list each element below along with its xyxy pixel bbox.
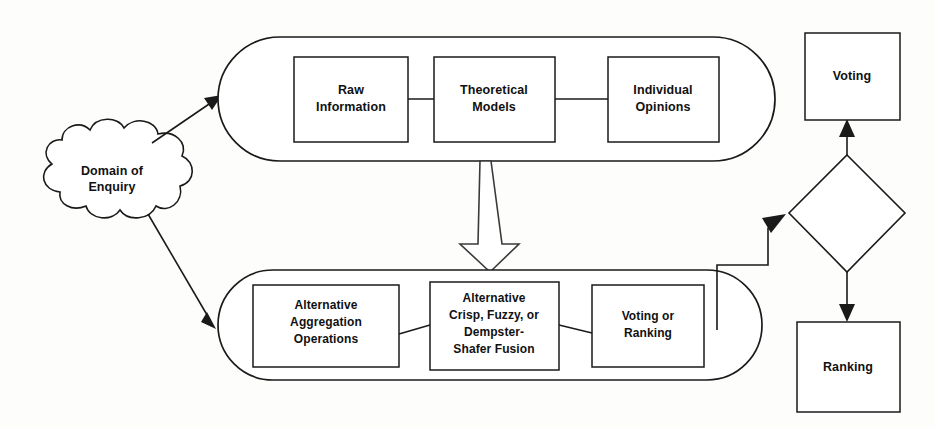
individual-opinions-label-line2: Opinions <box>636 100 691 114</box>
domain-of-enquiry-label-line2: Enquiry <box>88 180 135 194</box>
connector-diamond-to-voting <box>839 119 855 155</box>
connector-information-to-fusion <box>460 161 519 272</box>
ranking-label: Ranking <box>823 360 873 374</box>
alternative-fusion-label-line1: Alternative <box>462 291 525 305</box>
alternative-fusion-label-line3: Dempster- <box>464 325 524 339</box>
node-domain-of-enquiry[interactable]: Domain of Enquiry <box>44 119 193 218</box>
decision-diamond-shape <box>789 155 905 272</box>
connector-diamond-to-ranking <box>839 272 855 322</box>
theoretical-models-label-line1: Theoretical <box>460 83 528 97</box>
alternative-aggregation-operations-label-line1: Alternative <box>294 298 357 312</box>
connector-domain-to-fusion <box>148 214 216 329</box>
connector-domain-to-information <box>152 95 222 143</box>
diagram-svg: Domain of Enquiry Raw Information Th <box>0 0 935 428</box>
node-alternative-aggregation-operations[interactable]: Alternative Aggregation Operations <box>253 285 399 367</box>
node-raw-information[interactable]: Raw Information <box>294 57 408 142</box>
voting-or-ranking-label-line2: Ranking <box>624 326 672 340</box>
node-ranking[interactable]: Ranking <box>797 322 900 412</box>
arrowhead-icon <box>839 119 855 137</box>
alternative-fusion-label-line2: Crisp, Fuzzy, or <box>449 308 539 322</box>
arrowhead-icon <box>201 312 216 329</box>
voting-label: Voting <box>833 69 872 83</box>
node-theoretical-models[interactable]: Theoretical Models <box>434 57 555 142</box>
diagram-canvas: Domain of Enquiry Raw Information Th <box>0 0 935 428</box>
node-decision-diamond[interactable] <box>789 155 905 272</box>
theoretical-models-label-line2: Models <box>472 100 516 114</box>
node-alternative-fusion[interactable]: Alternative Crisp, Fuzzy, or Dempster- S… <box>430 282 559 370</box>
domain-of-enquiry-label-line1: Domain of <box>81 164 144 178</box>
voting-or-ranking-label-line1: Voting or <box>622 309 675 323</box>
node-voting[interactable]: Voting <box>805 33 900 120</box>
alternative-aggregation-operations-label-line2: Aggregation <box>290 315 362 329</box>
raw-information-label-line2: Information <box>316 100 386 114</box>
raw-information-label-line1: Raw <box>338 83 364 97</box>
arrowhead-icon <box>839 304 855 322</box>
alternative-fusion-label-line4: Shafer Fusion <box>453 342 534 356</box>
node-voting-or-ranking[interactable]: Voting or Ranking <box>592 285 704 367</box>
individual-opinions-label-line1: Individual <box>633 83 692 97</box>
alternative-aggregation-operations-label-line3: Operations <box>294 332 359 346</box>
node-individual-opinions[interactable]: Individual Opinions <box>608 57 719 142</box>
block-arrow-down-icon <box>460 161 519 272</box>
